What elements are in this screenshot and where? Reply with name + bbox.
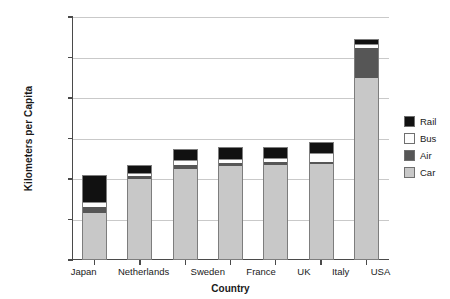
bar-stack[interactable] [173,149,198,260]
legend-item[interactable]: Car [404,164,450,181]
x-tick-mark [230,260,231,265]
bar-segment-rail[interactable] [264,148,287,158]
bar-segment-rail[interactable] [310,143,333,153]
legend-label: Car [420,167,435,178]
chart-legend: RailBusAirCar [404,113,450,181]
bar-column[interactable] [75,17,115,260]
x-tick-mark [94,260,95,265]
bar-segment-rail[interactable] [83,176,106,203]
x-tick-label: Netherlands [118,266,169,277]
bar-segment-car[interactable] [264,165,287,259]
bar-stack[interactable] [354,39,379,260]
bar-stack[interactable] [218,147,243,260]
bar-column[interactable] [120,17,160,260]
x-tick-label: Sweden [191,266,225,277]
bar-segment-rail[interactable] [174,150,197,159]
legend-label: Rail [420,116,436,127]
bar-stack[interactable] [263,147,288,260]
x-axis-labels: JapanNetherlandsSwedenFranceUKItalyUSA [60,266,401,277]
x-tick-mark [320,260,321,265]
legend-item[interactable]: Air [404,147,450,164]
legend-label: Bus [420,133,436,144]
x-tick-label: UK [297,266,310,277]
x-tick-label: France [246,266,276,277]
bar-segment-car[interactable] [174,169,197,259]
bar-column[interactable] [346,17,386,260]
bars-layer [72,17,389,260]
bar-stack[interactable] [127,165,152,260]
bar-segment-bus[interactable] [310,153,333,162]
bar-segment-car[interactable] [219,166,242,259]
bar-segment-rail[interactable] [219,148,242,160]
legend-item[interactable]: Rail [404,113,450,130]
legend-item[interactable]: Bus [404,130,450,147]
x-tick-mark [139,260,140,265]
bar-segment-car[interactable] [83,213,106,259]
legend-swatch-rail [404,116,415,127]
legend-swatch-bus [404,133,415,144]
bar-stack[interactable] [309,142,334,260]
x-tick-label: USA [371,266,391,277]
x-tick-mark [275,260,276,265]
bar-segment-air[interactable] [355,48,378,78]
bar-column[interactable] [210,17,250,260]
bar-column[interactable] [165,17,205,260]
bar-segment-car[interactable] [355,78,378,259]
x-axis-title: Country [72,283,389,294]
x-tick-label: Japan [71,266,97,277]
stacked-bar-chart: Kilometers per Capita JapanNetherlandsSw… [0,0,450,299]
x-tick-mark [185,260,186,265]
bar-column[interactable] [256,17,296,260]
bar-column[interactable] [301,17,341,260]
legend-swatch-car [404,167,415,178]
bar-segment-car[interactable] [128,179,151,259]
x-tick-mark [366,260,367,265]
bar-segment-car[interactable] [310,164,333,259]
bar-stack[interactable] [82,175,107,260]
legend-label: Air [420,150,432,161]
x-tick-label: Italy [332,266,349,277]
legend-swatch-air [404,150,415,161]
bar-segment-rail[interactable] [128,166,151,173]
y-axis-title: Kilometers per Capita [23,49,34,229]
